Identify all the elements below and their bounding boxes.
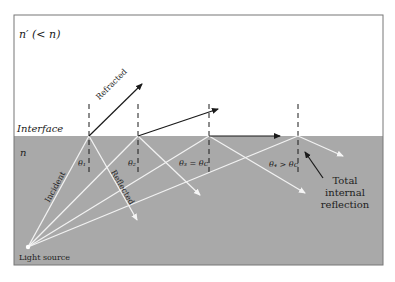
interface-label: Interface <box>17 124 63 134</box>
theta4-label: θ₄ > θc <box>269 161 298 169</box>
theta1-label: θ₁ <box>78 160 86 168</box>
tir-label: Total internal reflection <box>315 175 375 211</box>
tir-label-line3: reflection <box>315 199 375 211</box>
tir-diagram <box>0 0 395 282</box>
upper-medium <box>14 15 383 136</box>
light-source-label: Light source <box>19 254 70 262</box>
tir-label-line2: internal <box>315 187 375 199</box>
upper-medium-label: n′ (< n) <box>19 29 60 40</box>
light-source-point <box>26 245 30 249</box>
tir-label-line1: Total <box>315 175 375 187</box>
theta2-label: θ₂ <box>128 160 136 168</box>
lower-medium-label: n <box>20 148 26 158</box>
theta3-label: θ₃ = θc <box>179 160 208 168</box>
